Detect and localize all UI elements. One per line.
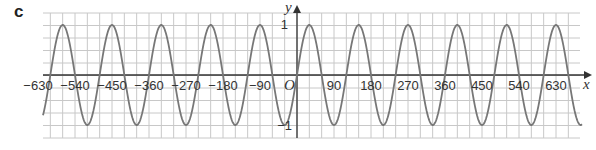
y-tick-label: 1 — [281, 17, 288, 32]
x-tick-label: −450 — [97, 78, 126, 93]
y-tick-label: −1 — [277, 118, 292, 133]
x-tick-label: 270 — [397, 78, 419, 93]
x-tick-label: −360 — [134, 78, 163, 93]
x-tick-label: −90 — [249, 78, 271, 93]
x-tick-label: −540 — [60, 78, 89, 93]
axes — [43, 5, 592, 138]
x-tick-label: −180 — [208, 78, 237, 93]
x-axis-label: x — [582, 76, 590, 92]
x-tick-label: 450 — [471, 78, 493, 93]
y-axis-label: y — [283, 0, 292, 15]
sine-graph: −630−540−450−360−270−180−909018027036045… — [0, 0, 596, 150]
x-tick-label: 90 — [327, 78, 341, 93]
x-tick-label: 540 — [508, 78, 530, 93]
x-tick-label: −270 — [171, 78, 200, 93]
x-tick-label: 630 — [545, 78, 567, 93]
x-tick-label: 180 — [360, 78, 382, 93]
x-tick-label: 360 — [434, 78, 456, 93]
origin-label: O — [284, 77, 295, 93]
x-tick-label: −630 — [23, 78, 52, 93]
